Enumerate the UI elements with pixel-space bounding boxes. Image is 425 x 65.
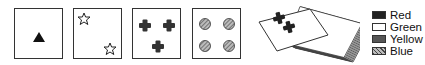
legend-label: Red <box>390 9 411 21</box>
swatch-yellow <box>372 35 386 43</box>
triangle-icon <box>33 32 45 42</box>
cross-icon <box>163 20 175 32</box>
legend-item-blue: Blue <box>372 45 423 57</box>
legend-label: Yellow <box>390 33 423 45</box>
legend-item-yellow: Yellow <box>372 33 423 45</box>
cross-icon <box>139 20 151 32</box>
legend-item-green: Green <box>372 21 423 33</box>
circle-icon <box>224 19 235 30</box>
legend-item-red: Red <box>372 9 423 21</box>
swatch-red <box>372 11 386 19</box>
circle-icon <box>200 19 211 30</box>
swatch-blue <box>372 47 386 55</box>
stimulus-card-4[interactable] <box>192 8 241 59</box>
stimulus-card-3[interactable] <box>132 8 181 59</box>
circle-icon <box>200 41 211 52</box>
stimulus-card-1[interactable] <box>14 8 63 59</box>
color-legend: Red Green Yellow Blue <box>372 9 423 57</box>
legend-label: Blue <box>390 45 413 57</box>
legend-label: Green <box>390 21 422 33</box>
stimulus-card-2[interactable] <box>73 8 122 59</box>
response-card-deck[interactable] <box>255 0 360 65</box>
swatch-green <box>372 23 386 31</box>
circle-icon <box>224 41 235 52</box>
star-icon <box>78 13 90 25</box>
cross-icon <box>152 41 164 53</box>
star-icon <box>104 43 116 55</box>
